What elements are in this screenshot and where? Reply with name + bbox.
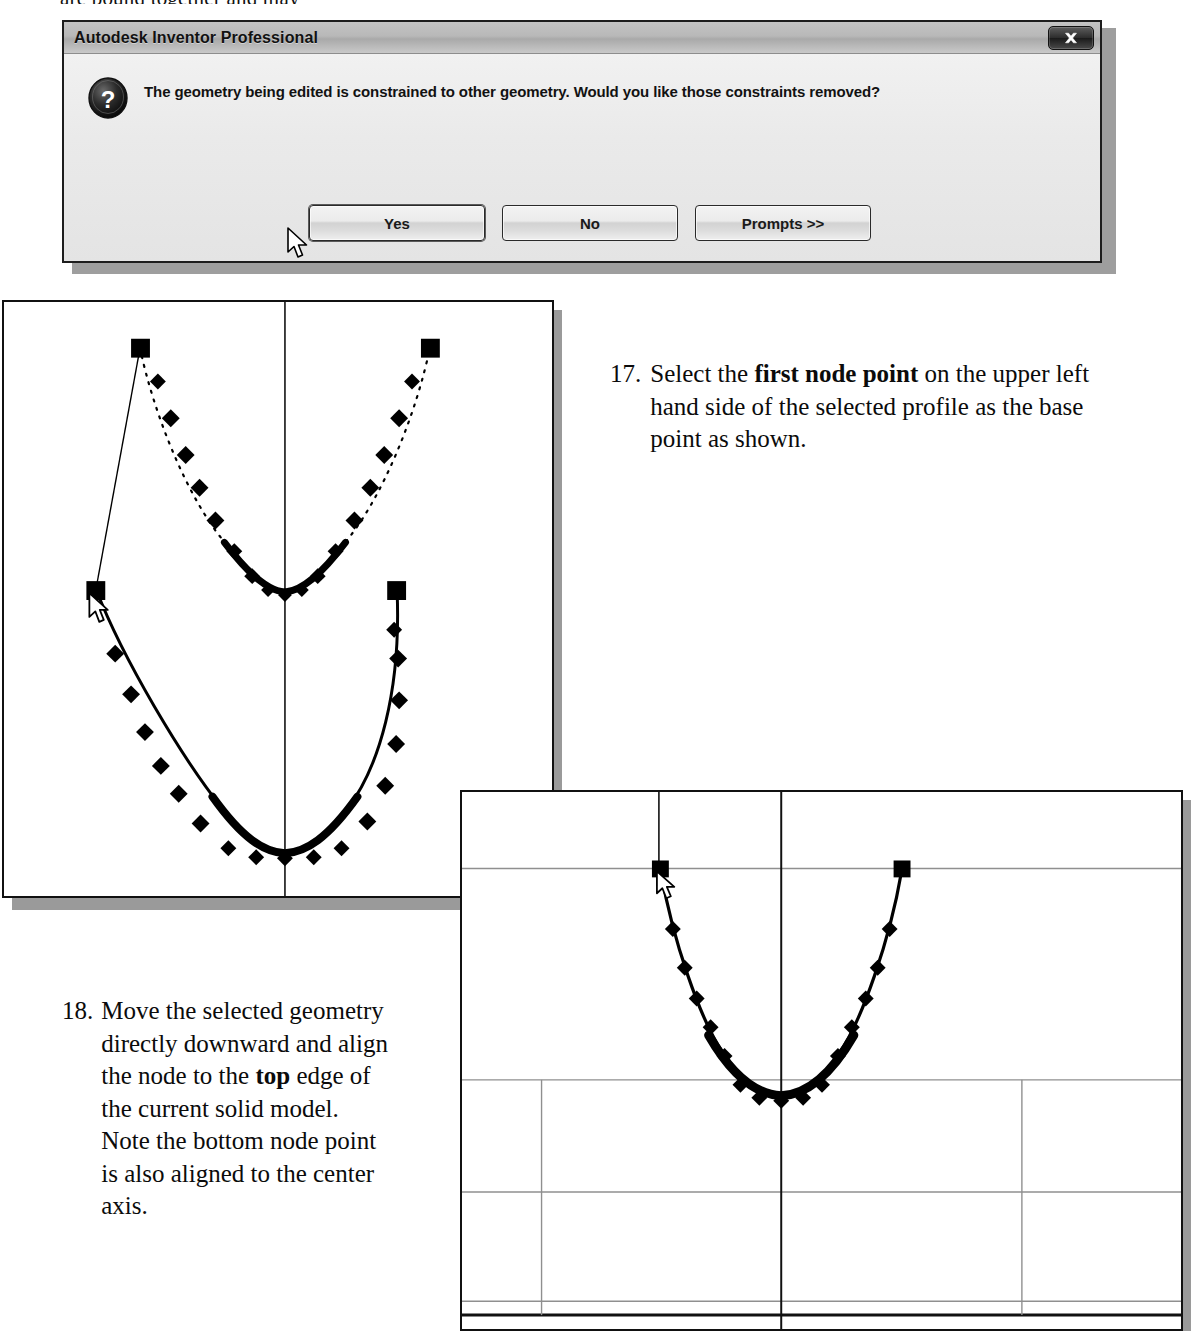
- dialog-title: Autodesk Inventor Professional: [74, 29, 318, 47]
- step-18: 18. Move the selected geometry directly …: [62, 995, 392, 1223]
- dialog-message-text: The geometry being edited is constrained…: [144, 74, 880, 102]
- dialog-titlebar[interactable]: Autodesk Inventor Professional: [64, 22, 1100, 54]
- step-17-text: Select the first node point on the upper…: [650, 358, 1130, 456]
- right-endpoint-square: [894, 860, 911, 877]
- no-button[interactable]: No: [502, 205, 678, 241]
- upper-right-endpoint-square: [421, 339, 440, 358]
- sketch-profile-after-move: [460, 790, 1183, 1331]
- dialog-button-row: Yes No Prompts >>: [64, 205, 1100, 241]
- step-17-number: 17.: [610, 358, 650, 456]
- step-17-emphasis: first node point: [754, 360, 918, 387]
- svg-text:?: ?: [101, 86, 116, 113]
- prompts-button-label: Prompts >>: [742, 215, 825, 232]
- step-18-text: Move the selected geometry directly down…: [101, 995, 392, 1223]
- yes-button[interactable]: Yes: [309, 205, 485, 241]
- step-18-emphasis: top: [255, 1062, 290, 1089]
- step-17: 17. Select the first node point on the u…: [610, 358, 1130, 456]
- clipped-text-line: are bound together and may: [60, 0, 1060, 4]
- question-icon: ?: [86, 76, 130, 120]
- no-button-label: No: [580, 215, 600, 232]
- lower-profile-nodes: [106, 622, 408, 866]
- prompts-button[interactable]: Prompts >>: [695, 205, 871, 241]
- dialog-message-row: ? The geometry being edited is constrain…: [64, 54, 1100, 120]
- step-17-text-before: Select the: [650, 360, 754, 387]
- construction-line: [96, 354, 139, 587]
- close-icon[interactable]: [1048, 26, 1094, 50]
- upper-left-endpoint-square: [131, 339, 150, 358]
- inventor-dialog: Autodesk Inventor Professional: [62, 20, 1102, 263]
- step-18-number: 18.: [62, 995, 101, 1223]
- dialog-body: ? The geometry being edited is constrain…: [64, 54, 1100, 261]
- yes-button-label: Yes: [384, 215, 410, 232]
- lower-right-endpoint-square: [387, 581, 406, 600]
- lower-profile-curve: [96, 590, 397, 853]
